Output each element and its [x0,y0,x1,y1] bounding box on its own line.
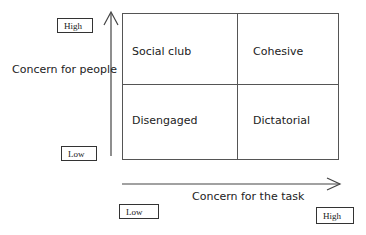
x-axis-label: Concern for the task [192,190,304,203]
quadrant-bottom-left-label: Disengaged [132,114,197,127]
grid-horizontal-divider [123,84,338,85]
y-axis-high-tag: High [57,18,93,33]
grid-vertical-divider [237,14,238,159]
quadrant-grid: Social club Cohesive Disengaged Dictator… [122,13,339,160]
y-axis-label: Concern for people [12,63,117,76]
quadrant-bottom-right-label: Dictatorial [253,114,310,127]
y-axis-low-tag: Low [61,146,97,161]
x-axis-low-tag: Low [119,204,159,219]
quadrant-top-left-label: Social club [132,45,191,58]
x-axis-high-tag: High [316,207,354,224]
quadrant-top-right-label: Cohesive [253,45,303,58]
